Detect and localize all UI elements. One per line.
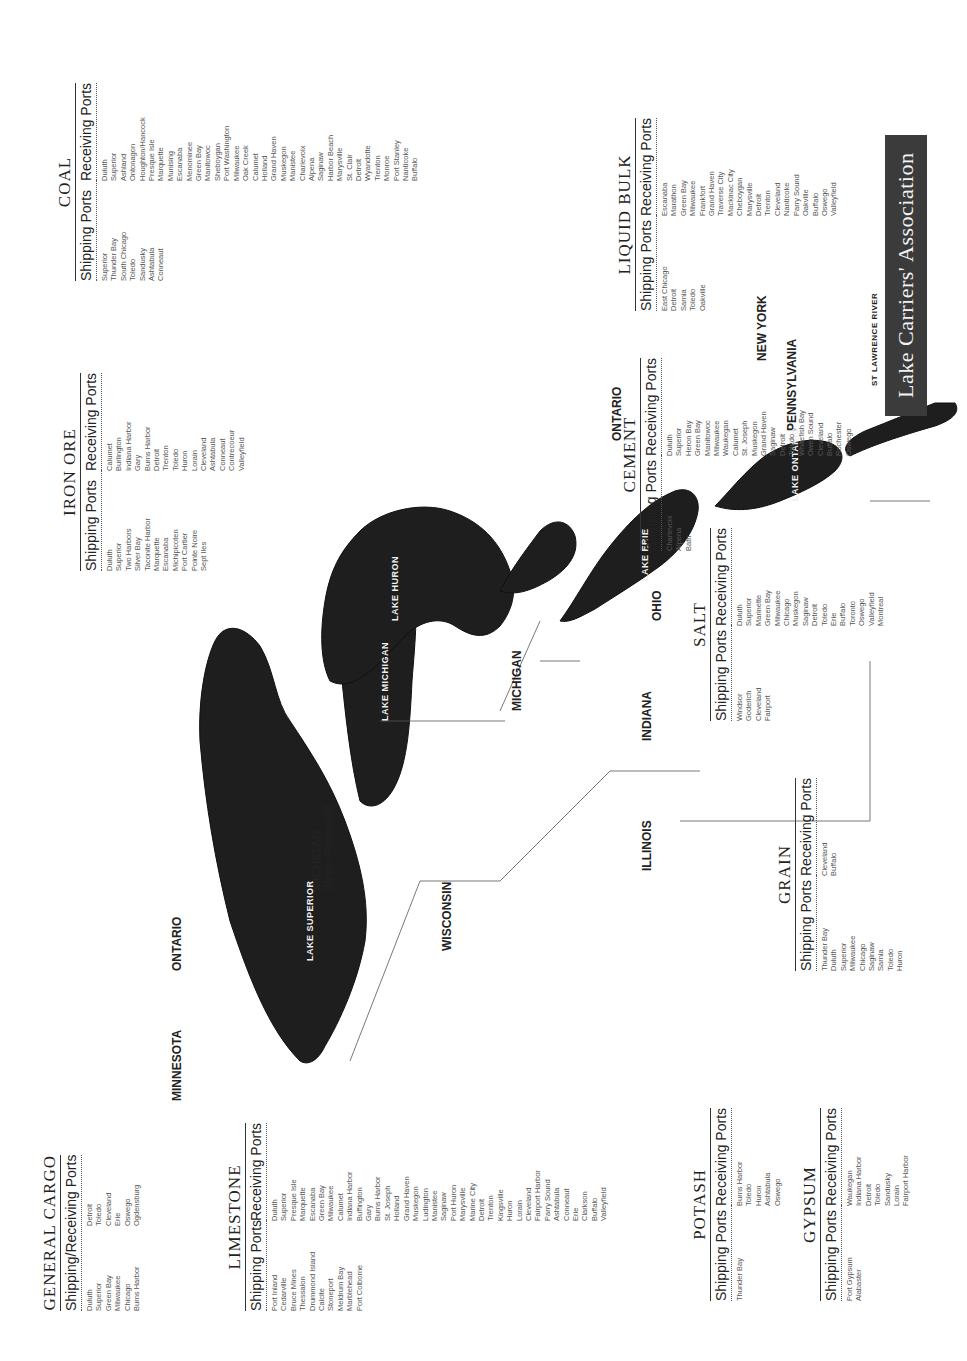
cement-receiving-header: Receiving Ports: [640, 358, 662, 456]
salt-title: SALT: [690, 528, 710, 721]
general-cargo-col1: DuluthSuperiorGreen BayMilwaukeeChicagoB…: [85, 1226, 141, 1311]
salt-table: SALT Shipping PortsWindsorGoderichClevel…: [690, 528, 886, 721]
port-item: Valleyfield: [867, 528, 876, 626]
port-item: Oakville: [801, 118, 810, 216]
port-item: Fairport Harbor: [533, 1123, 542, 1221]
port-item: Toledo: [688, 216, 697, 311]
port-item: Cedarville: [279, 1221, 288, 1311]
port-item: Nanticoke: [782, 118, 791, 216]
port-item: Superior: [114, 471, 123, 571]
port-item: Superior: [674, 358, 683, 456]
port-item: Green Bay: [317, 1123, 326, 1221]
port-item: Harbor Beach: [326, 83, 335, 181]
port-item: Munising: [166, 83, 175, 181]
port-item: Oak Creek: [241, 83, 250, 181]
port-item: Cleveland: [104, 1185, 113, 1226]
port-item: Muskegon: [279, 83, 288, 181]
port-item: Marysville: [458, 1123, 467, 1221]
gypsum-title: GYPSUM: [800, 1108, 820, 1301]
port-item: Detroit: [778, 358, 787, 456]
port-item: Michipicoten: [171, 471, 180, 571]
grain-receiving-list: ClevelandBuffalo: [820, 778, 839, 876]
port-item: Marblehead: [345, 1221, 354, 1311]
port-item: Traverse City: [716, 118, 725, 216]
grain-title: GRAIN: [775, 778, 795, 971]
port-item: Escanaba: [161, 471, 170, 571]
general-cargo-header: Shipping/Receiving Ports: [60, 1155, 82, 1311]
port-item: Conneaut: [562, 1123, 571, 1221]
label-illinois: ILLINOIS: [640, 820, 654, 871]
port-item: Marquette: [298, 1123, 307, 1221]
general-cargo-title: GENERAL CARGO: [40, 1155, 60, 1311]
port-item: Huron: [895, 876, 904, 971]
port-item: Marysville: [335, 83, 344, 181]
limestone-receiving-list: DuluthSuperiorPresque IsleMarquetteEscan…: [270, 1123, 609, 1221]
port-item: Buffalo: [825, 358, 834, 456]
port-item: Port Gypsum: [845, 1206, 854, 1301]
port-item: Ogdensburg: [132, 1185, 141, 1226]
port-item: Burns Harbor: [132, 1226, 141, 1311]
port-item: Ludington: [421, 1123, 430, 1221]
coal-table: COAL Shipping PortsSuperiorThunder BaySo…: [55, 83, 420, 281]
port-item: Escanaba: [308, 1123, 317, 1221]
port-item: Huron: [505, 1123, 514, 1221]
port-item: Calumet: [251, 83, 260, 181]
port-item: Gary: [133, 373, 142, 471]
limestone-table: LIMESTONE Shipping PortsPort InlandCedar…: [225, 1123, 609, 1311]
port-item: Buffalo: [590, 1123, 599, 1221]
port-item: Green Bay: [679, 118, 688, 216]
port-item: Trenton: [373, 83, 382, 181]
iron-ore-table: IRON ORE Shipping PortsDuluthSuperiorTwo…: [60, 373, 246, 571]
port-item: Calumet: [731, 358, 740, 456]
port-item: Ontonagon: [128, 83, 137, 181]
lake-huron-shape: [322, 507, 514, 684]
cement-table: CEMENT Shipping PortsCharlevoixAlpenaBat…: [620, 358, 853, 551]
grain-shipping-header: Shipping Ports: [795, 876, 817, 971]
port-item: Port Huron: [449, 1123, 458, 1221]
label-indiana: INDIANA: [640, 691, 654, 741]
port-item: Duluth: [829, 876, 838, 971]
port-item: Two Harbors: [124, 471, 133, 571]
port-item: Oakville: [698, 216, 707, 311]
port-item: Heron Bay: [684, 358, 693, 456]
port-item: South Chicago: [119, 181, 128, 281]
lake-superior-shape: [200, 628, 367, 1063]
port-item: Detroit: [669, 216, 678, 311]
port-item: Conneaut: [218, 373, 227, 471]
port-item: Stoneport: [326, 1221, 335, 1311]
port-item: Sheboygan: [213, 83, 222, 181]
cement-receiving-list: DuluthSuperiorHeron BayGreen BayManitowo…: [665, 358, 853, 456]
port-item: Buffington: [355, 1123, 364, 1221]
port-item: Grand Haven: [707, 118, 716, 216]
port-item: Cleveland: [773, 118, 782, 216]
port-item: Erie: [113, 1185, 122, 1226]
iron-ore-shipping-list: DuluthSuperiorTwo HarborsSilver BayTacon…: [105, 471, 208, 571]
liquid-bulk-table: LIQUID BULK Shipping PortsEast ChicagoDe…: [615, 118, 839, 311]
potash-table: POTASH Shipping PortsThunder Bay Receivi…: [690, 1108, 782, 1301]
port-item: Saginaw: [316, 83, 325, 181]
port-item: Silver Bay: [133, 471, 142, 571]
port-item: Owen Sound: [806, 358, 815, 456]
port-item: Monroe: [382, 83, 391, 181]
port-item: Alpena: [307, 83, 316, 181]
port-item: Burns Harbor: [735, 1108, 744, 1206]
port-item: Cleveland: [816, 358, 825, 456]
port-item: Sandusky: [138, 181, 147, 281]
port-item: Cleveland: [820, 778, 829, 876]
port-item: Lorain: [515, 1123, 524, 1221]
port-item: Thunder Bay: [820, 876, 829, 971]
port-item: Marquette: [152, 471, 161, 571]
iron-ore-title: IRON ORE: [60, 373, 80, 571]
port-item: Huron: [754, 1108, 763, 1206]
label-ohio: OHIO: [650, 590, 664, 621]
liquid-bulk-shipping-list: East ChicagoDetroitSarniaToledoOakville: [660, 216, 707, 311]
port-item: Toledo: [128, 181, 137, 281]
port-item: Duluth: [105, 471, 114, 571]
port-item: Windsor: [735, 626, 744, 721]
port-item: Trenton: [161, 373, 170, 471]
port-item: Duluth: [270, 1123, 279, 1221]
gypsum-receiving-list: WaukeganIndiana HarborDetroitToledoSandu…: [845, 1108, 911, 1206]
grain-shipping-list: Thunder BayDuluthSuperiorMilwaukeeChicag…: [820, 876, 905, 971]
port-item: Presque Isle: [289, 1123, 298, 1221]
coal-shipping-header: Shipping Ports: [75, 181, 97, 281]
